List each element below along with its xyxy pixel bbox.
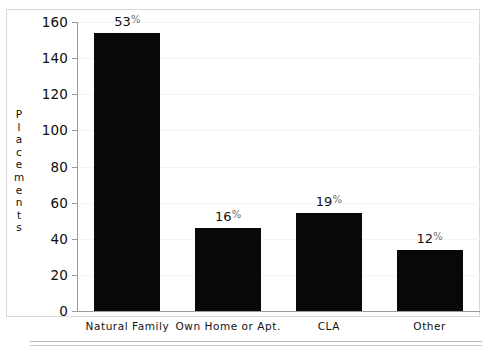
y-axis-title-letter: t: [12, 209, 26, 222]
bar-value-label: 16%: [188, 209, 268, 224]
y-axis-title: Placements: [12, 108, 26, 234]
y-axis-title-letter: a: [12, 133, 26, 146]
y-axis-tick-label: 40: [26, 231, 68, 247]
bar-value-label: 19%: [289, 194, 369, 209]
y-axis-tick-label: 80: [26, 159, 68, 175]
y-axis-tick-label: 120: [26, 86, 68, 102]
y-axis-title-letter: e: [12, 158, 26, 171]
y-axis-tick-label: 0: [26, 303, 68, 319]
y-axis-title-letter: e: [12, 184, 26, 197]
y-axis-title-letter: P: [12, 108, 26, 121]
bar-value-label: 53%: [87, 14, 167, 29]
bottom-rule-upper: [30, 341, 482, 342]
bar-chart: 020406080100120140160 Placements 53%16%1…: [0, 0, 501, 355]
bar: [94, 33, 160, 311]
bar: [296, 213, 362, 311]
plot-area: [77, 22, 480, 311]
bar: [195, 228, 261, 311]
y-axis-title-letter: s: [12, 221, 26, 234]
y-axis-tick-label: 20: [26, 267, 68, 283]
y-axis-title-letter: l: [12, 121, 26, 134]
y-axis-title-letter: m: [12, 171, 26, 184]
y-axis-title-letter: c: [12, 146, 26, 159]
y-axis-tick-label: 60: [26, 195, 68, 211]
x-axis-category-label: Other: [360, 320, 500, 332]
y-axis-tick-label: 140: [26, 50, 68, 66]
y-axis-title-letter: n: [12, 196, 26, 209]
y-axis-tick-label: 100: [26, 122, 68, 138]
y-axis-tick-label: 160: [26, 14, 68, 30]
bar-value-label: 12%: [390, 231, 470, 246]
bar: [397, 250, 463, 311]
bottom-rule-lower: [30, 345, 482, 346]
